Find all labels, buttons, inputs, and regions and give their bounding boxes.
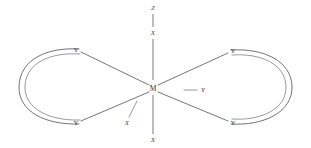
chelate-right-outer-arc xyxy=(231,50,292,124)
coordination-complex-diagram: Z X X M Y Y Y Y Y X xyxy=(0,0,311,148)
chelate-ligand-right xyxy=(231,50,292,124)
leader-label-y: Y xyxy=(201,86,206,94)
chelate-ligand-left xyxy=(19,49,80,124)
donor-label-upper-left: Y xyxy=(73,46,78,54)
central-metal-label: M xyxy=(150,84,157,93)
leader-line-equatorial-lower xyxy=(129,101,137,117)
bond-m-to-donor-lower-right xyxy=(158,92,228,121)
axis-label-x-upper: X xyxy=(150,29,156,37)
donor-label-lower-right: Y xyxy=(230,119,235,127)
structure-canvas: Z X X M Y Y Y Y Y X xyxy=(0,0,311,148)
axis-label-z: Z xyxy=(151,4,155,12)
chelate-right-inner-arc xyxy=(232,55,286,119)
donor-label-lower-left: Y xyxy=(73,119,78,127)
bond-m-to-donor-lower-left xyxy=(81,92,149,121)
leader-label-x: X xyxy=(124,119,130,127)
donor-label-upper-right: Y xyxy=(230,47,235,55)
axis-label-x-lower: X xyxy=(150,136,156,144)
chelate-left-outer-arc xyxy=(19,49,79,124)
bond-m-to-donor-upper-right xyxy=(158,53,228,85)
bond-m-to-donor-upper-left xyxy=(81,52,149,85)
chelate-left-inner-arc xyxy=(25,54,80,120)
